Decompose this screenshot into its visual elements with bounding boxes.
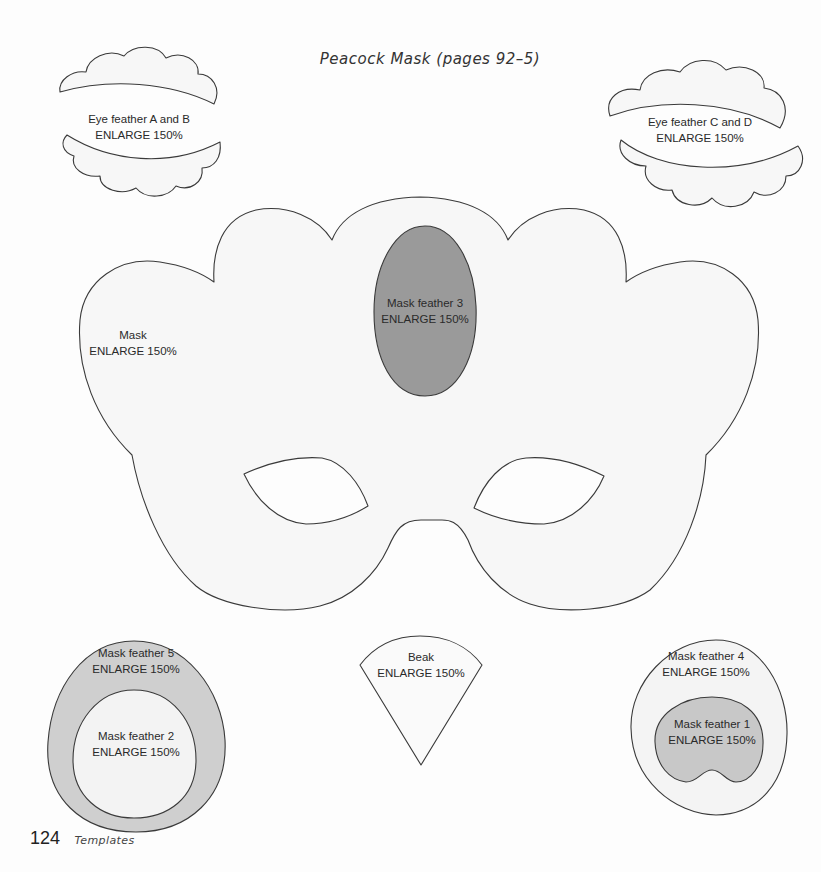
- beak-instruction: ENLARGE 150%: [377, 665, 465, 681]
- eye-feather-cd-instruction: ENLARGE 150%: [648, 130, 752, 146]
- eye-feather-ab-bottom-shape: [63, 135, 220, 196]
- eye-feather-ab-instruction: ENLARGE 150%: [88, 127, 190, 143]
- eye-feather-cd-label: Eye feather C and D ENLARGE 150%: [648, 114, 752, 146]
- mask-label: Mask ENLARGE 150%: [89, 327, 177, 359]
- eye-feather-cd-bottom-shape: [620, 140, 802, 207]
- section-name: Templates: [75, 834, 135, 847]
- mask-feather-3-instruction: ENLARGE 150%: [381, 311, 469, 327]
- beak-label: Beak ENLARGE 150%: [377, 649, 465, 681]
- mask-feather-5-label: Mask feather 5 ENLARGE 150%: [92, 645, 180, 677]
- mask-feather-5-name: Mask feather 5: [92, 645, 180, 661]
- mask-feather-1-label: Mask feather 1 ENLARGE 150%: [668, 716, 756, 748]
- page-footer: 124 Templates: [30, 828, 135, 849]
- mask-feather-3-label: Mask feather 3 ENLARGE 150%: [381, 295, 469, 327]
- mask-feather-4-instruction: ENLARGE 150%: [662, 664, 750, 680]
- page-number: 124: [30, 828, 60, 848]
- mask-feather-2-label: Mask feather 2 ENLARGE 150%: [92, 728, 180, 760]
- beak-name: Beak: [377, 649, 465, 665]
- mask-feather-2-name: Mask feather 2: [92, 728, 180, 744]
- mask-feather-5-instruction: ENLARGE 150%: [92, 661, 180, 677]
- eye-feather-ab-top-shape: [60, 47, 217, 104]
- mask-feather-4-name: Mask feather 4: [662, 648, 750, 664]
- mask-feather-3-name: Mask feather 3: [381, 295, 469, 311]
- template-page: Peacock Mask (pages 92–5) Eye feather A …: [0, 0, 821, 872]
- eye-feather-ab-label: Eye feather A and B ENLARGE 150%: [88, 111, 190, 143]
- mask-feather-4-label: Mask feather 4 ENLARGE 150%: [662, 648, 750, 680]
- mask-feather-2-instruction: ENLARGE 150%: [92, 744, 180, 760]
- page-title: Peacock Mask (pages 92–5): [320, 50, 540, 68]
- mask-feather-1-instruction: ENLARGE 150%: [668, 732, 756, 748]
- mask-instruction: ENLARGE 150%: [89, 343, 177, 359]
- eye-feather-cd-name: Eye feather C and D: [648, 114, 752, 130]
- mask-feather-1-name: Mask feather 1: [668, 716, 756, 732]
- eye-feather-ab-name: Eye feather A and B: [88, 111, 190, 127]
- mask-name: Mask: [89, 327, 177, 343]
